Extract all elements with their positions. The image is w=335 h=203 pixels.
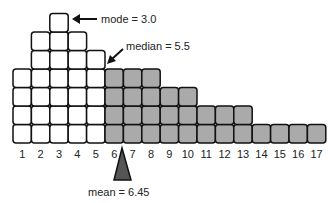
x-tick-label: 2: [38, 148, 44, 160]
mode-annotation: mode = 3.0: [72, 13, 156, 25]
x-tick-label: 17: [310, 148, 322, 160]
histogram-cell: [31, 125, 49, 144]
x-tick-label: 5: [93, 148, 99, 160]
x-tick-label: 13: [237, 148, 249, 160]
histogram-cell: [123, 106, 141, 125]
histogram-cell: [68, 51, 86, 70]
histogram-cell: [31, 106, 49, 125]
histogram-cell: [289, 125, 307, 144]
histogram-cell: [142, 125, 160, 144]
histogram-cell: [179, 88, 197, 107]
x-tick-label: 4: [74, 148, 80, 160]
histogram-cell: [13, 106, 31, 125]
x-tick-label: 10: [182, 148, 194, 160]
histogram-cell: [215, 125, 233, 144]
histogram-cell: [68, 69, 86, 88]
histogram-cell: [31, 69, 49, 88]
histogram-cell: [160, 88, 178, 107]
x-tick-label: 14: [255, 148, 267, 160]
histogram-cell: [31, 51, 49, 70]
x-tick-label: 8: [148, 148, 154, 160]
histogram-cell: [142, 88, 160, 107]
x-tick-label: 11: [200, 148, 211, 160]
histogram-cell: [50, 106, 68, 125]
histogram-cell: [50, 69, 68, 88]
histogram-cell: [105, 69, 123, 88]
histogram-cell: [307, 125, 325, 144]
histogram-cell: [160, 106, 178, 125]
x-tick-label: 15: [274, 148, 286, 160]
histogram-cell: [215, 106, 233, 125]
histogram-cell: [87, 69, 105, 88]
histogram-chart: 1234567891011121314151617 mode = 3.0 med…: [0, 0, 335, 203]
mean-label: mean = 6.45: [88, 186, 149, 198]
histogram-cell: [123, 69, 141, 88]
histogram-cell: [271, 125, 289, 144]
histogram-cell: [31, 32, 49, 51]
histogram-cell: [234, 125, 252, 144]
median-label: median = 5.5: [126, 40, 190, 52]
histogram-cell: [68, 106, 86, 125]
histogram-cell: [105, 125, 123, 144]
histogram-cell: [105, 88, 123, 107]
x-tick-label: 12: [218, 148, 230, 160]
histogram-cell: [123, 125, 141, 144]
histogram-cell: [179, 125, 197, 144]
histogram-cell: [105, 106, 123, 125]
median-annotation: median = 5.5: [107, 40, 190, 64]
mode-arrowhead-icon: [72, 14, 80, 24]
histogram-cell: [197, 125, 215, 144]
x-tick-label: 9: [166, 148, 172, 160]
histogram-cell: [50, 14, 68, 33]
histogram-cell: [234, 106, 252, 125]
x-tick-labels: 1234567891011121314151617: [19, 148, 323, 160]
histogram-cell: [87, 106, 105, 125]
histogram-cells: [13, 14, 326, 144]
histogram-cell: [50, 51, 68, 70]
histogram-cell: [68, 88, 86, 107]
x-tick-label: 6: [111, 148, 117, 160]
histogram-cell: [87, 51, 105, 70]
median-arrow-icon: [112, 49, 123, 59]
x-tick-label: 3: [56, 148, 62, 160]
histogram-cell: [87, 88, 105, 107]
histogram-cell: [50, 125, 68, 144]
histogram-cell: [13, 125, 31, 144]
histogram-cell: [142, 106, 160, 125]
histogram-cell: [68, 125, 86, 144]
histogram-cell: [31, 88, 49, 107]
histogram-cell: [123, 88, 141, 107]
histogram-cell: [87, 125, 105, 144]
histogram-cell: [50, 32, 68, 51]
histogram-cell: [252, 125, 270, 144]
mode-label: mode = 3.0: [101, 13, 156, 25]
histogram-cell: [68, 32, 86, 51]
histogram-cell: [50, 88, 68, 107]
histogram-cell: [142, 69, 160, 88]
x-tick-label: 16: [292, 148, 304, 160]
x-tick-label: 7: [130, 148, 136, 160]
histogram-cell: [160, 125, 178, 144]
histogram-cell: [179, 106, 197, 125]
histogram-cell: [13, 69, 31, 88]
histogram-cell: [197, 106, 215, 125]
x-tick-label: 1: [19, 148, 25, 160]
histogram-cell: [13, 88, 31, 107]
